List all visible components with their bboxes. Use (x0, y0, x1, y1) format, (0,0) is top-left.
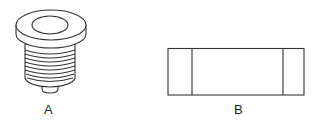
figure-b-block (168, 49, 304, 96)
figure-a-plug (16, 10, 86, 93)
figure-b-label: B (234, 103, 243, 116)
plug-cap-recess (32, 16, 68, 34)
figure-a-label: A (44, 103, 53, 116)
block-outline (168, 49, 304, 96)
